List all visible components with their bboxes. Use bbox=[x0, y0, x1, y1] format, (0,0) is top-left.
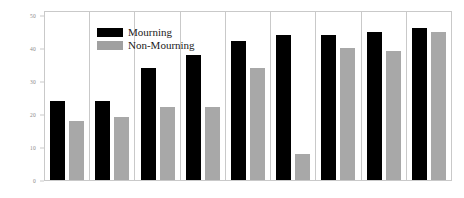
bar-non-mourning bbox=[250, 68, 265, 180]
bar-non-mourning bbox=[386, 51, 401, 180]
bar-mourning bbox=[186, 55, 201, 180]
y-axis-tick-label: 40 bbox=[30, 46, 36, 52]
legend-swatch-icon bbox=[97, 41, 123, 50]
bar-mourning bbox=[321, 35, 336, 180]
bar-mourning bbox=[231, 41, 246, 180]
chart-panel bbox=[316, 12, 361, 180]
bar-mourning bbox=[412, 28, 427, 180]
bar-mourning bbox=[276, 35, 291, 180]
chart-legend: MourningNon-Mourning bbox=[97, 26, 195, 52]
bar-group bbox=[226, 12, 270, 180]
legend-item: Mourning bbox=[97, 26, 195, 39]
chart-panel bbox=[362, 12, 407, 180]
bar-non-mourning bbox=[205, 107, 220, 180]
legend-swatch-icon bbox=[97, 28, 123, 37]
bar-mourning bbox=[50, 101, 65, 180]
chart-panel bbox=[407, 12, 451, 180]
chart-panel bbox=[226, 12, 271, 180]
y-axis-tick-label: 0 bbox=[33, 178, 36, 184]
y-axis-tick-label: 20 bbox=[30, 112, 36, 118]
plot-area: MourningNon-Mourning bbox=[44, 11, 452, 181]
chart-panel bbox=[45, 12, 90, 180]
bar-non-mourning bbox=[340, 48, 355, 180]
bar-non-mourning bbox=[69, 121, 84, 180]
bar-mourning bbox=[95, 101, 110, 180]
y-axis-tick-label: 10 bbox=[30, 145, 36, 151]
bar-non-mourning bbox=[431, 32, 446, 181]
bar-group bbox=[407, 12, 451, 180]
bar-group bbox=[271, 12, 315, 180]
bar-non-mourning bbox=[160, 107, 175, 180]
legend-item-label: Mourning bbox=[128, 26, 172, 39]
y-axis: 01020304050 bbox=[0, 0, 44, 198]
y-axis-tick-label: 30 bbox=[30, 79, 36, 85]
chart-panel bbox=[271, 12, 316, 180]
legend-item-label: Non-Mourning bbox=[128, 39, 195, 52]
bar-group bbox=[362, 12, 406, 180]
bar-group bbox=[45, 12, 89, 180]
bar-non-mourning bbox=[114, 117, 129, 180]
bar-mourning bbox=[141, 68, 156, 180]
bar-mourning bbox=[367, 32, 382, 181]
y-axis-tick-label: 50 bbox=[30, 13, 36, 19]
bar-non-mourning bbox=[295, 154, 310, 180]
bar-group bbox=[316, 12, 360, 180]
bar-chart: 01020304050 MourningNon-Mourning bbox=[0, 0, 464, 198]
legend-item: Non-Mourning bbox=[97, 39, 195, 52]
